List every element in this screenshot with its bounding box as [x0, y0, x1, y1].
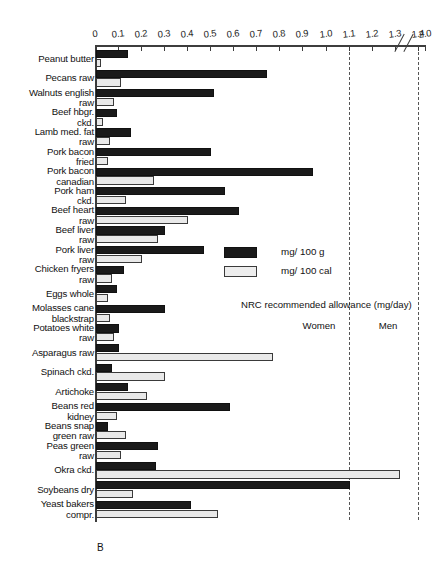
- x-tick-label-1.0: 1.0: [319, 27, 333, 39]
- bar-mg-per-100cal: [96, 470, 400, 478]
- bar-row: Peanut butter: [0, 50, 435, 67]
- x-tick-label-0.4: 0.4: [180, 27, 194, 39]
- nrc-label-men: Men: [379, 320, 398, 331]
- x-axis-line: [95, 45, 425, 47]
- bar-mg-per-100cal: [96, 333, 114, 341]
- bar-mg-per-100g: [96, 344, 119, 352]
- bar-mg-per-100cal: [96, 98, 114, 106]
- bar-mg-per-100g: [96, 481, 350, 489]
- plot-area: 00.10.20.30.40.50.60.70.80.91.01.11.21.3…: [0, 0, 435, 572]
- bar-mg-per-100g: [96, 187, 225, 195]
- panel-letter: B: [97, 542, 104, 553]
- bar-mg-per-100cal: [96, 451, 121, 459]
- row-label: Eggs whole: [46, 289, 94, 299]
- bar-row: Pork liver raw: [0, 246, 435, 263]
- row-label: Beans snap green raw: [45, 421, 94, 442]
- bar-mg-per-100g: [96, 109, 117, 117]
- bar-row: Chicken fryers raw: [0, 266, 435, 283]
- bar-mg-per-100cal: [96, 176, 154, 184]
- row-label: Pecans raw: [45, 73, 94, 83]
- x-tick-label-0.8: 0.8: [273, 27, 287, 39]
- bar-row: Beef liver raw: [0, 226, 435, 243]
- bar-mg-per-100cal: [96, 314, 110, 322]
- bar-mg-per-100cal: [96, 157, 108, 165]
- row-label: Beef heart raw: [51, 205, 94, 226]
- bar-row: Pork bacon canadian: [0, 168, 435, 185]
- row-label: Peas green raw: [46, 441, 94, 462]
- bar-row: Beans snap green raw: [0, 422, 435, 439]
- nrc-allowance-caption: NRC recommended allowance (mg/day): [241, 299, 412, 310]
- bar-mg-per-100cal: [96, 294, 108, 302]
- row-label: Okra ckd.: [54, 465, 94, 475]
- bar-mg-per-100g: [96, 324, 119, 332]
- bar-mg-per-100cal: [96, 235, 158, 243]
- bar-mg-per-100g: [96, 226, 165, 234]
- bar-row: Pork ham ckd.: [0, 187, 435, 204]
- x-tick-label-0.9: 0.9: [296, 27, 310, 39]
- bar-mg-per-100g: [96, 50, 128, 58]
- bar-mg-per-100g: [96, 207, 239, 215]
- row-label: Beef liver raw: [56, 225, 95, 246]
- row-label: Beans red kidney: [52, 401, 94, 422]
- bar-row: Soybeans dry: [0, 481, 435, 498]
- bar-mg-per-100cal: [96, 59, 101, 67]
- bar-mg-per-100cal: [96, 392, 147, 400]
- row-label: Spinach ckd.: [41, 367, 94, 377]
- bar-mg-per-100cal: [96, 353, 273, 361]
- bar-mg-per-100cal: [96, 431, 126, 439]
- chart-page: 00.10.20.30.40.50.60.70.80.91.01.11.21.3…: [0, 0, 435, 572]
- bar-row: Potatoes white raw: [0, 324, 435, 341]
- row-label: Chicken fryers raw: [35, 264, 94, 285]
- bar-mg-per-100g: [96, 246, 204, 254]
- bar-row: Pork bacon fried: [0, 148, 435, 165]
- bar-mg-per-100g: [96, 168, 313, 176]
- x-tick-label-1.1: 1.1: [342, 27, 356, 39]
- bar-row: Walnuts english raw: [0, 89, 435, 106]
- legend-label-mg-per-100g: mg/ 100 g: [281, 246, 325, 257]
- bar-mg-per-100cal: [96, 118, 103, 126]
- bar-mg-per-100g: [96, 128, 131, 136]
- x-tick-label-0.3: 0.3: [157, 27, 171, 39]
- x-tick-label-0.7: 0.7: [249, 27, 263, 39]
- row-label: Peanut butter: [38, 54, 94, 64]
- legend-swatch-mg-per-100g: [224, 247, 257, 258]
- x-tick-label-0.2: 0.2: [134, 27, 148, 39]
- bar-mg-per-100g: [96, 442, 158, 450]
- row-label: Lamb med. fat raw: [35, 127, 94, 148]
- bar-mg-per-100g: [96, 462, 156, 470]
- bar-mg-per-100cal: [96, 196, 126, 204]
- bar-mg-per-100cal: [96, 137, 110, 145]
- bar-mg-per-100cal: [96, 490, 133, 498]
- row-label: Soybeans dry: [37, 485, 94, 495]
- bar-mg-per-100g: [96, 285, 117, 293]
- bar-row: Asparagus raw: [0, 344, 435, 361]
- bar-row: Yeast bakers compr.: [0, 501, 435, 518]
- bar-mg-per-100cal: [96, 216, 188, 224]
- legend-swatch-mg-per-100cal: [224, 266, 257, 277]
- row-label: Yeast bakers compr.: [41, 499, 94, 520]
- bar-mg-per-100g: [96, 501, 191, 509]
- row-label: Beef hbgr. ckd.: [52, 107, 94, 128]
- x-tick-label-0.1: 0.1: [111, 27, 125, 39]
- bar-row: Beef heart raw: [0, 207, 435, 224]
- x-tick-label-0: 0: [92, 28, 98, 39]
- bar-mg-per-100g: [96, 305, 165, 313]
- bar-mg-per-100g: [96, 403, 230, 411]
- bar-mg-per-100cal: [96, 78, 121, 86]
- x-tick-label-2.0: 2.0: [418, 27, 432, 39]
- bar-row: Spinach ckd.: [0, 364, 435, 381]
- bar-row: Artichoke: [0, 383, 435, 400]
- bar-row: Beans red kidney: [0, 403, 435, 420]
- bar-mg-per-100g: [96, 422, 108, 430]
- bar-mg-per-100g: [96, 148, 211, 156]
- nrc-label-women: Women: [303, 320, 336, 331]
- x-tick-label-1.3: 1.3: [388, 27, 402, 39]
- row-label: Artichoke: [55, 387, 94, 397]
- bar-mg-per-100g: [96, 89, 214, 97]
- bar-mg-per-100g: [96, 364, 112, 372]
- bar-mg-per-100g: [96, 266, 124, 274]
- bar-row: Pecans raw: [0, 70, 435, 87]
- legend-label-mg-per-100cal: mg/ 100 cal: [281, 265, 332, 276]
- bar-mg-per-100g: [96, 70, 267, 78]
- bar-mg-per-100cal: [96, 255, 142, 263]
